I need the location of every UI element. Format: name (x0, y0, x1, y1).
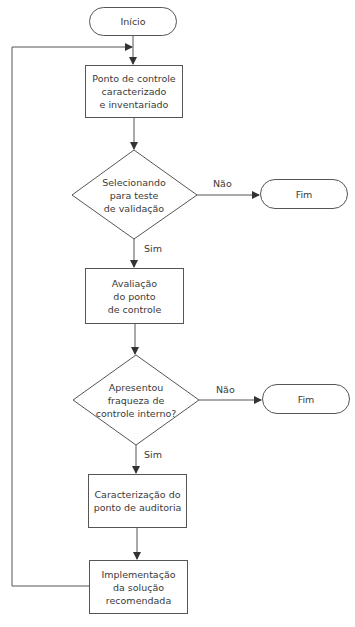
edge-label-yes-2: Sim (144, 449, 162, 460)
process-control-point-label: Ponto de controle caracterizado e invent… (92, 72, 175, 111)
process-audit-point: Caracterização do ponto de auditoria (88, 474, 187, 528)
edge-label-no-1: Não (213, 178, 232, 189)
end-terminator-2: Fim (262, 384, 350, 414)
edge-label-yes-1: Sim (144, 243, 162, 254)
start-label: Início (120, 15, 145, 28)
end-terminator-1: Fim (260, 179, 348, 209)
process-evaluation: Avaliação do ponto de controle (85, 268, 184, 324)
process-implementation-label: Implementação da solução recomendada (101, 568, 175, 607)
decision-selected-for-validation: Selecionando para teste de validação (90, 174, 178, 216)
decision-internal-control-weakness: Apresentou fraqueza de controle interno? (88, 379, 184, 421)
start-terminator: Início (89, 7, 177, 36)
decision-selected-label: Selecionando para teste de validação (102, 176, 166, 215)
end-label-2: Fim (298, 393, 315, 406)
edge-label-no-2: Não (216, 384, 235, 395)
process-audit-point-label: Caracterização do ponto de auditoria (94, 488, 182, 514)
process-control-point: Ponto de controle caracterizado e invent… (85, 65, 183, 118)
process-evaluation-label: Avaliação do ponto de controle (108, 277, 162, 316)
decision-weakness-label: Apresentou fraqueza de controle interno? (96, 381, 177, 420)
process-implementation: Implementação da solução recomendada (89, 560, 188, 614)
end-label-1: Fim (296, 188, 313, 201)
